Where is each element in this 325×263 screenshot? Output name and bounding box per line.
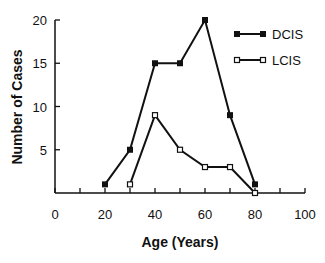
plot-series	[102, 17, 258, 196]
legend-label: DCIS	[272, 27, 303, 42]
y-tick-label: 15	[33, 56, 47, 71]
data-point-marker	[227, 112, 233, 118]
data-point-marker	[127, 147, 133, 153]
legend-marker-start	[235, 58, 240, 63]
y-axis-title: Number of Cases	[9, 49, 25, 164]
series-line	[130, 115, 255, 193]
x-tick-label: 100	[294, 207, 316, 222]
legend-label: LCIS	[272, 53, 301, 68]
x-axis: 020406080100	[51, 188, 315, 222]
data-point-marker	[228, 165, 233, 170]
legend-marker-end	[260, 31, 266, 37]
data-point-marker	[177, 60, 183, 66]
y-tick-label: 10	[33, 100, 47, 115]
data-point-marker	[152, 60, 158, 66]
legend: DCISLCIS	[234, 27, 303, 68]
x-tick-label: 40	[148, 207, 162, 222]
legend-item-lcis: LCIS	[235, 53, 302, 68]
series-line	[105, 20, 255, 184]
data-point-marker	[178, 147, 183, 152]
x-axis-title: Age (Years)	[141, 234, 218, 250]
x-tick-label: 0	[51, 207, 58, 222]
legend-item-dcis: DCIS	[234, 27, 303, 42]
x-tick-label: 80	[248, 207, 262, 222]
x-tick-label: 60	[198, 207, 212, 222]
data-point-marker	[153, 113, 158, 118]
data-point-marker	[202, 17, 208, 23]
y-tick-label: 20	[33, 13, 47, 28]
data-point-marker	[253, 191, 258, 196]
y-tick-label: 5	[40, 143, 47, 158]
line-chart: 5101520 020406080100 DCISLCIS Age (Years…	[0, 0, 325, 263]
series-dcis	[102, 17, 258, 187]
legend-marker-end	[261, 58, 266, 63]
data-point-marker	[102, 181, 108, 187]
data-point-marker	[252, 181, 258, 187]
y-axis: 5101520	[33, 13, 60, 193]
series-lcis	[128, 113, 258, 196]
data-point-marker	[128, 182, 133, 187]
legend-marker-start	[234, 31, 240, 37]
x-tick-label: 20	[98, 207, 112, 222]
data-point-marker	[203, 165, 208, 170]
